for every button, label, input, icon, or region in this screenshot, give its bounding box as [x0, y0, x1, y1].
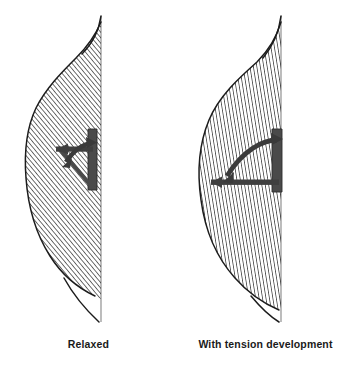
- panel-relaxed: Relaxed: [0, 0, 177, 373]
- muscle-diagram-with-tension: [177, 0, 354, 330]
- panel-with-tension: With tension development: [177, 0, 354, 373]
- figure-canvas: Relaxed: [0, 0, 354, 373]
- caption-relaxed: Relaxed: [0, 338, 177, 351]
- muscle-fibers-with-tension: [177, 0, 354, 330]
- caption-with-tension: With tension development: [177, 338, 354, 351]
- muscle-diagram-relaxed: [0, 0, 177, 330]
